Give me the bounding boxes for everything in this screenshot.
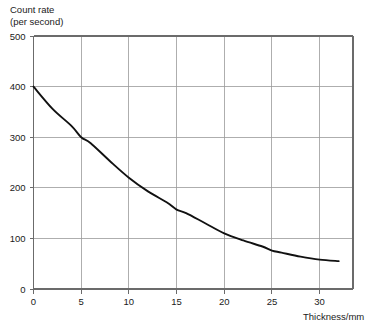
- y-tick-label-0: 0: [20, 284, 25, 295]
- vertical-gridlines: [81, 36, 319, 289]
- x-tick-label-30: 30: [314, 296, 325, 307]
- plot-area: 0100200300400500 051015202530: [0, 0, 386, 329]
- x-tick-labels: 051015202530: [31, 296, 325, 307]
- x-tick-label-25: 25: [267, 296, 278, 307]
- y-tick-label-500: 500: [10, 31, 26, 42]
- y-tick-label-200: 200: [10, 182, 26, 193]
- x-tick-label-20: 20: [219, 296, 230, 307]
- chart-figure: Count rate (per second) Thickness/mm 010…: [0, 0, 386, 329]
- x-tick-label-0: 0: [31, 296, 36, 307]
- y-tick-label-400: 400: [10, 81, 26, 92]
- tick-marks: [30, 36, 320, 294]
- y-tick-labels: 0100200300400500: [10, 31, 26, 295]
- x-tick-label-5: 5: [79, 296, 84, 307]
- x-tick-label-15: 15: [171, 296, 182, 307]
- data-curve-count-rate: [34, 87, 339, 262]
- y-tick-label-100: 100: [10, 233, 26, 244]
- y-tick-label-300: 300: [10, 132, 26, 143]
- x-tick-label-10: 10: [124, 296, 135, 307]
